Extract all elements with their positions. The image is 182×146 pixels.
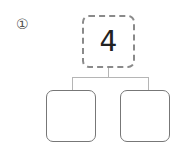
connector-horizontal [72,77,149,78]
answer-box-right[interactable] [120,90,170,142]
connector-drop-right [148,77,149,90]
top-number-value: 4 [100,25,118,58]
answer-box-left[interactable] [46,90,96,142]
top-number-box: 4 [82,15,135,68]
connector-drop-left [72,77,73,90]
problem-number-label: ① [16,16,29,32]
connector-stem [108,68,109,77]
